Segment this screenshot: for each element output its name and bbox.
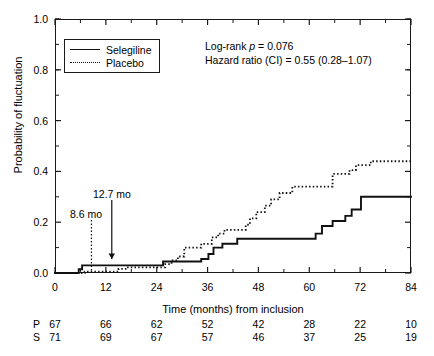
legend-label-placebo: Placebo xyxy=(106,57,144,69)
risk-table-row: P6766625242282210 xyxy=(33,318,423,331)
series-lines xyxy=(55,161,411,273)
risk-value: 71 xyxy=(42,331,68,343)
risk-table-row: S7169675746372519 xyxy=(33,331,423,344)
legend: Selegiline Placebo xyxy=(64,39,160,73)
hazard-ratio-line: Hazard ratio (CI) = 0.55 (0.28–1.07) xyxy=(205,53,372,67)
y-axis-label: Probability of fluctuation xyxy=(12,5,24,225)
x-tick-label: 60 xyxy=(289,282,329,293)
legend-key-solid-line-icon xyxy=(70,44,100,55)
risk-value: 67 xyxy=(144,331,170,343)
risk-value: 46 xyxy=(245,331,271,343)
median-arrowhead-selegiline xyxy=(109,254,115,260)
x-tick-label: 24 xyxy=(137,282,177,293)
risk-value: 62 xyxy=(144,318,170,330)
risk-value: 37 xyxy=(296,331,322,343)
x-axis-label: Time (months) from inclusion xyxy=(55,303,411,315)
risk-value: 52 xyxy=(195,318,221,330)
series-line-placebo xyxy=(55,161,411,273)
median-label-placebo: 8.6 mo xyxy=(70,208,102,220)
x-tick-label: 84 xyxy=(391,282,431,293)
risk-value: 28 xyxy=(296,318,322,330)
legend-item-selegiline: Selegiline xyxy=(70,43,152,56)
risk-value: 42 xyxy=(245,318,271,330)
logrank-prefix: Log-rank xyxy=(205,40,249,52)
risk-value: 25 xyxy=(347,331,373,343)
kaplan-meier-figure: 0.00.20.40.60.81.0 012243648607284 Proba… xyxy=(0,0,434,356)
legend-key-dotted-line-icon xyxy=(70,57,100,68)
legend-label-selegiline: Selegiline xyxy=(106,44,152,56)
statistics-annotation: Log-rank p = 0.076 Hazard ratio (CI) = 0… xyxy=(205,39,372,67)
x-tick-label: 12 xyxy=(86,282,126,293)
risk-value: 22 xyxy=(347,318,373,330)
risk-value: 67 xyxy=(42,318,68,330)
risk-value: 19 xyxy=(398,331,424,343)
series-line-selegiline xyxy=(55,197,411,273)
legend-item-placebo: Placebo xyxy=(70,56,152,69)
x-tick-label: 48 xyxy=(238,282,278,293)
x-tick-label: 72 xyxy=(340,282,380,293)
risk-value: 10 xyxy=(398,318,424,330)
y-tick-label: 0.0 xyxy=(14,268,48,279)
numbers-at-risk-table: P6766625242282210S7169675746372519 xyxy=(33,318,423,344)
risk-value: 69 xyxy=(93,331,119,343)
risk-value: 66 xyxy=(93,318,119,330)
risk-value: 57 xyxy=(195,331,221,343)
logrank-line: Log-rank p = 0.076 xyxy=(205,39,372,53)
x-tick-label: 0 xyxy=(35,282,75,293)
logrank-value: = 0.076 xyxy=(255,40,293,52)
median-label-selegiline: 12.7 mo xyxy=(93,188,131,200)
x-tick-label: 36 xyxy=(188,282,228,293)
